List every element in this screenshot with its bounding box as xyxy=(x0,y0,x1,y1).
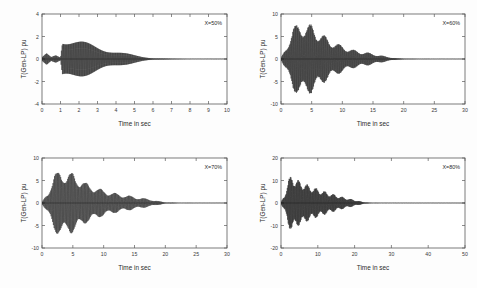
y-tick-label: 2 xyxy=(36,34,39,40)
x-tick-label: 25 xyxy=(193,251,199,257)
x-tick-label: 5 xyxy=(310,107,313,113)
y-axis-title: T(Gen-LP) pu xyxy=(20,39,28,79)
figure-panel-grid: 012345678910-4-2024Time in secT(Gen-LP) … xyxy=(0,0,477,288)
x-tick-label: 8 xyxy=(189,107,192,113)
x-tick-label: 20 xyxy=(162,251,168,257)
x-tick-label: 15 xyxy=(132,251,138,257)
y-tick-label: -5 xyxy=(273,79,278,85)
y-tick-label: -20 xyxy=(271,245,279,251)
x-tick-label: 7 xyxy=(170,107,173,113)
x-tick-label: 2 xyxy=(78,107,81,113)
x-tick-label: 20 xyxy=(352,251,358,257)
x-tick-label: 0 xyxy=(280,251,283,257)
x-tick-label: 10 xyxy=(224,107,230,113)
y-tick-label: -10 xyxy=(32,245,40,251)
x-tick-label: 30 xyxy=(462,107,468,113)
x-tick-label: 0 xyxy=(280,107,283,113)
y-tick-label: 10 xyxy=(33,155,39,161)
y-tick-label: 5 xyxy=(275,34,278,40)
y-tick-label: -2 xyxy=(34,79,39,85)
x-tick-label: 9 xyxy=(207,107,210,113)
chart-panel-top-left: 012345678910-4-2024Time in secT(Gen-LP) … xyxy=(0,0,239,144)
panel-annotation: X=70% xyxy=(204,164,222,170)
y-tick-label: -4 xyxy=(34,101,39,107)
x-tick-label: 30 xyxy=(389,251,395,257)
x-tick-label: 40 xyxy=(425,251,431,257)
x-axis-title: Time in sec xyxy=(357,120,390,127)
y-tick-label: 0 xyxy=(275,56,278,62)
chart-panel-bottom-right: 01020304050-20-1001020Time in secT(Gen-L… xyxy=(239,144,477,288)
y-axis-title: T(Gen-LP) pu xyxy=(259,39,267,79)
panel-annotation: X=50% xyxy=(204,20,222,26)
x-tick-label: 50 xyxy=(462,251,468,257)
y-axis-title: T(Gen-LP) pu xyxy=(259,183,267,223)
y-axis-title: T(Gen-LP) pu xyxy=(20,183,28,223)
x-tick-label: 10 xyxy=(315,251,321,257)
x-tick-label: 5 xyxy=(133,107,136,113)
x-axis-title: Time in sec xyxy=(118,120,151,127)
x-tick-label: 5 xyxy=(71,251,74,257)
chart-panel-top-right: 051015202530-10-50510Time in secT(Gen-LP… xyxy=(239,0,477,144)
panel-annotation: X=60% xyxy=(442,20,460,26)
x-tick-label: 20 xyxy=(401,107,407,113)
y-tick-label: 0 xyxy=(275,200,278,206)
plot-bottom-left: 051015202530-10-50510Time in secT(Gen-LP… xyxy=(0,144,239,288)
x-axis-title: Time in sec xyxy=(357,264,390,271)
y-tick-label: 20 xyxy=(272,155,278,161)
y-tick-label: 4 xyxy=(36,11,39,17)
y-tick-label: 10 xyxy=(272,11,278,17)
x-tick-label: 6 xyxy=(152,107,155,113)
y-tick-label: 0 xyxy=(36,200,39,206)
y-tick-label: -5 xyxy=(34,223,39,229)
x-tick-label: 3 xyxy=(96,107,99,113)
plot-top-right: 051015202530-10-50510Time in secT(Gen-LP… xyxy=(239,0,477,144)
x-tick-label: 25 xyxy=(431,107,437,113)
plot-top-left: 012345678910-4-2024Time in secT(Gen-LP) … xyxy=(0,0,239,144)
y-tick-label: 10 xyxy=(272,178,278,184)
x-tick-label: 10 xyxy=(101,251,107,257)
y-tick-label: -10 xyxy=(271,101,279,107)
x-tick-label: 10 xyxy=(339,107,345,113)
x-axis-title: Time in sec xyxy=(118,264,151,271)
x-tick-label: 15 xyxy=(370,107,376,113)
panel-annotation: X=80% xyxy=(442,164,460,170)
x-tick-label: 0 xyxy=(41,107,44,113)
x-tick-label: 30 xyxy=(224,251,230,257)
x-tick-label: 1 xyxy=(59,107,62,113)
y-tick-label: 0 xyxy=(36,56,39,62)
x-tick-label: 4 xyxy=(115,107,118,113)
y-tick-label: 5 xyxy=(36,178,39,184)
plot-bottom-right: 01020304050-20-1001020Time in secT(Gen-L… xyxy=(239,144,477,288)
chart-panel-bottom-left: 051015202530-10-50510Time in secT(Gen-LP… xyxy=(0,144,239,288)
x-tick-label: 0 xyxy=(41,251,44,257)
y-tick-label: -10 xyxy=(271,223,279,229)
